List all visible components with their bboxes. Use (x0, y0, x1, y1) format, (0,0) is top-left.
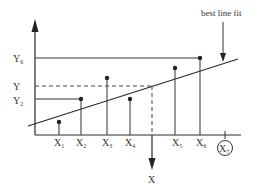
point-x6 (198, 56, 202, 60)
x6-label: X6 (196, 137, 206, 149)
annotation-arrow-icon (220, 53, 226, 62)
best-line-fit-label: best line fit (201, 8, 242, 18)
y6-label: Y6 (13, 53, 23, 65)
x-tick-labels: X1 X2 X3 X4 X5 X6 X7 (54, 137, 229, 155)
x-axis-label: X (148, 174, 156, 185)
point-x4 (128, 97, 132, 101)
regression-diagram: best line fit Y6 Y Y2 X1 X2 X3 X4 X5 X6 … (0, 0, 259, 188)
x1-label: X1 (54, 137, 64, 149)
x5-label: X5 (172, 137, 182, 149)
y-axis-arrow-icon (32, 19, 39, 32)
point-x1 (57, 120, 61, 124)
x7-label: X7 (219, 143, 229, 155)
x4-label: X4 (125, 137, 135, 149)
point-x2 (79, 97, 83, 101)
best-fit-line (28, 59, 238, 126)
data-points (57, 56, 202, 135)
point-x5 (173, 66, 177, 70)
x-projection-arrow-icon (149, 158, 156, 170)
y2-label: Y2 (13, 95, 23, 107)
point-x3 (105, 76, 109, 80)
y-label: Y (13, 81, 20, 92)
x3-label: X3 (102, 137, 112, 149)
x2-label: X2 (76, 137, 86, 149)
